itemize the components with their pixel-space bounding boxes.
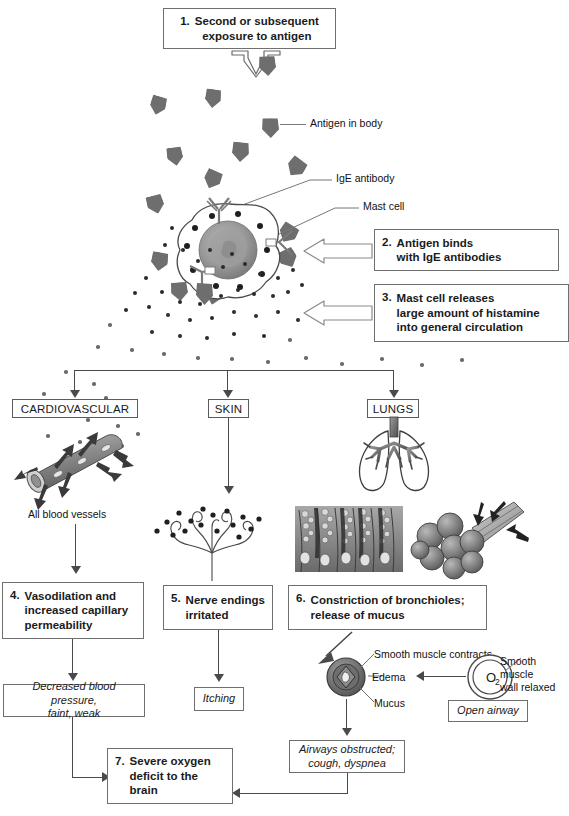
step-1-number: 1.	[180, 14, 190, 29]
step-6-text: Constriction of bronchioles; release of …	[311, 593, 465, 622]
alveoli-constriction-illustration	[410, 498, 530, 574]
histamine-dot	[286, 290, 290, 294]
histamine-dot	[420, 363, 424, 367]
diagram-canvas: 1. Second or subsequent exposure to anti…	[0, 0, 569, 816]
histamine-dot	[188, 318, 192, 322]
histamine-dot	[291, 268, 295, 272]
histamine-dot	[460, 358, 464, 362]
histamine-dot	[162, 352, 166, 356]
organ-label-cardiovascular: CARDIOVASCULAR	[21, 403, 130, 415]
histamine-dot	[340, 362, 344, 366]
step-6-number: 6.	[296, 591, 306, 606]
arrow-line-cardio-step4	[75, 524, 76, 568]
antigen-shape	[231, 142, 249, 163]
outcome-lungs-text: Airways obstructed; cough, dyspnea	[297, 743, 397, 770]
arrow-head-airway-obstructed	[342, 728, 352, 736]
arrow-line-airway-obstructed	[346, 699, 347, 731]
lungs-illustration	[344, 417, 444, 495]
antigen-shape	[165, 146, 184, 167]
histamine-dot	[208, 248, 212, 252]
branch-stem-cardio	[74, 370, 75, 392]
ige-receptor-icon	[266, 228, 294, 262]
histamine-dot	[196, 259, 200, 263]
histamine-dot	[232, 332, 236, 336]
histamine-dot	[181, 248, 185, 252]
nerve-ending-illustration	[155, 505, 265, 583]
organ-label-lungs: LUNGS	[373, 403, 414, 415]
histamine-dot	[178, 300, 182, 304]
arrow-head-cardio-step4	[71, 566, 81, 574]
mast-cell-label: Mast cell	[363, 200, 404, 213]
histamine-dot	[108, 323, 112, 327]
step-6-box: 6. Constriction of bronchioles; release …	[288, 585, 487, 630]
antigen-in-body-label: Antigen in body	[310, 117, 382, 130]
step-4-number: 4.	[10, 588, 20, 603]
arrow-line-cardio-step7-h	[72, 777, 104, 778]
step-2-number: 2.	[382, 235, 392, 250]
outcome-cardio-text: Decreased blood pressure, faint, weak	[11, 680, 137, 721]
antigen-shape	[150, 251, 169, 272]
histamine-dot	[236, 288, 240, 292]
histamine-dot	[163, 243, 167, 247]
organ-box-skin: SKIN	[208, 399, 249, 418]
histamine-dot	[96, 345, 100, 349]
all-blood-vessels-label: All blood vessels	[28, 508, 106, 521]
histamine-dot	[144, 276, 148, 280]
organ-box-cardiovascular: CARDIOVASCULAR	[12, 399, 138, 418]
histamine-dot	[221, 265, 225, 269]
arrow-head-o2-to-edema	[416, 671, 424, 681]
branch-arrow-cardio	[70, 390, 80, 398]
arrow-line-step4-outcome	[72, 639, 73, 676]
step-3-open-arrow-icon	[302, 300, 374, 326]
step-3-box: 3. Mast cell releases large amount of hi…	[374, 284, 569, 342]
histamine-dot	[254, 314, 258, 318]
histamine-dot	[380, 357, 384, 361]
organ-box-lungs: LUNGS	[367, 399, 419, 418]
arrow-line-cardio-step7-v	[72, 717, 73, 777]
edema-label: Edema	[372, 671, 405, 684]
step-2-box: 2. Antigen binds with IgE antibodies	[374, 229, 559, 271]
arrow-head-step5-itching	[214, 674, 224, 682]
histamine-dot	[252, 292, 256, 296]
step-3-text: Mast cell releases large amount of hista…	[397, 291, 540, 335]
outcome-lungs-box: Airways obstructed; cough, dyspnea	[289, 740, 405, 773]
antigen-shape	[148, 94, 168, 116]
histamine-dot	[150, 330, 154, 334]
arrow-line-lungs-step7-v	[347, 773, 348, 793]
histamine-dot	[170, 226, 174, 230]
smooth-muscle-wall-relaxed-label: Smooth muscle wall relaxed	[500, 655, 569, 694]
histamine-dot	[86, 418, 90, 422]
arrow-head-lungs-step7	[232, 788, 240, 798]
step-7-text: Severe oxygen deficit to the brain	[130, 754, 211, 798]
histamine-dot	[198, 302, 202, 306]
antigen-shape	[145, 193, 167, 216]
outcome-cardio-box: Decreased blood pressure, faint, weak	[3, 684, 145, 717]
branch-bus-line	[74, 370, 394, 371]
branch-arrow-lungs	[389, 390, 399, 398]
histamine-dot	[166, 313, 170, 317]
arrow-head-skin-nerve	[224, 486, 234, 494]
histamine-dot	[296, 318, 300, 322]
arrow-line-step5-itching	[218, 630, 219, 677]
antigen-shape	[283, 155, 309, 181]
histamine-dot	[258, 272, 262, 276]
histamine-dot	[304, 356, 308, 360]
histamine-dot	[230, 252, 234, 256]
branch-stem-skin	[227, 370, 228, 392]
antigen-callout-line	[280, 124, 306, 125]
histamine-dot	[178, 334, 182, 338]
step-5-number: 5.	[171, 591, 181, 606]
histamine-dot	[92, 382, 96, 386]
histamine-dot	[232, 310, 236, 314]
histamine-dot	[219, 294, 223, 298]
histamine-dot	[262, 334, 266, 338]
histamine-dot	[124, 308, 128, 312]
step-4-box: 4. Vasodilation and increased capillary …	[2, 582, 144, 639]
ige-antibody-icon	[206, 196, 232, 226]
histamine-dot	[210, 316, 214, 320]
histamine-dot	[276, 276, 280, 280]
branch-arrow-skin	[223, 390, 233, 398]
step-4-text: Vasodilation and increased capillary per…	[25, 589, 129, 633]
step-2-text: Antigen binds with IgE antibodies	[397, 236, 502, 265]
step-7-box: 7. Severe oxygen deficit to the brain	[107, 748, 233, 804]
